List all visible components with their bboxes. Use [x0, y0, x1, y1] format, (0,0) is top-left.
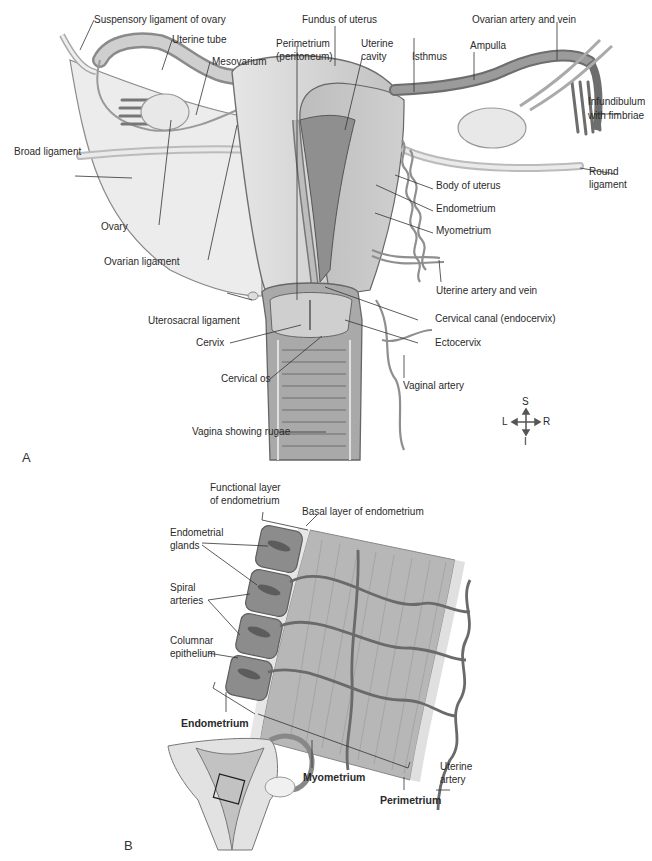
uterus-anatomy-illustration [0, 0, 652, 861]
label-infundibulum-1: Infundibulum [588, 96, 645, 108]
compass-right: R [543, 416, 550, 428]
label-suspensory-ligament: Suspensory ligament of ovary [94, 14, 226, 26]
label-uterine-cavity-1: Uterine [361, 38, 393, 50]
label-functional-layer-1: Functional layer [210, 482, 281, 494]
label-functional-layer-2: of endometrium [210, 495, 279, 507]
label-broad-ligament: Broad ligament [14, 146, 81, 158]
orientation-compass [512, 409, 540, 435]
label-uterine-artery-b-2: artery [440, 774, 466, 786]
label-ovary: Ovary [101, 221, 128, 233]
label-basal-layer: Basal layer of endometrium [302, 506, 424, 518]
label-uterine-cavity-2: cavity [361, 51, 387, 63]
label-perimetrium-b: Perimetrium [380, 794, 441, 806]
label-cervix: Cervix [196, 337, 224, 349]
label-vaginal-artery: Vaginal artery [403, 380, 464, 392]
compass-left: L [502, 416, 508, 428]
compass-inferior: I [524, 436, 527, 448]
uterus-body-shape [232, 56, 404, 300]
label-endometrial-glands-1: Endometrial [170, 527, 223, 539]
label-ampulla: Ampulla [470, 40, 506, 52]
label-infundibulum-2: with fimbriae [588, 110, 644, 122]
label-uterine-artery-b-1: Uterine [440, 761, 472, 773]
label-uterosacral-ligament: Uterosacral ligament [148, 315, 240, 327]
label-spiral-arteries-1: Spiral [170, 582, 196, 594]
label-uterine-tube: Uterine tube [172, 34, 226, 46]
inset-uterus [168, 736, 312, 850]
label-vagina: Vagina showing rugae [192, 426, 290, 438]
label-myometrium-b: Myometrium [303, 771, 365, 783]
label-peritoneum: (peritoneum) [276, 51, 333, 63]
label-fundus: Fundus of uterus [302, 14, 377, 26]
label-myometrium: Myometrium [436, 225, 491, 237]
label-round-ligament-2: ligament [589, 179, 627, 191]
compass-superior: S [522, 396, 529, 408]
label-endometrium: Endometrium [436, 203, 495, 215]
label-mesovarium: Mesovarium [212, 56, 266, 68]
label-ovarian-ligament: Ovarian ligament [104, 256, 180, 268]
label-endometrial-glands-2: glands [170, 540, 199, 552]
label-endometrium-b: Endometrium [181, 717, 249, 729]
label-spiral-arteries-2: arteries [170, 595, 203, 607]
label-ectocervix: Ectocervix [435, 337, 481, 349]
label-columnar-epithelium-2: epithelium [170, 648, 216, 660]
label-uterine-artery-vein: Uterine artery and vein [436, 285, 537, 297]
panel-b-letter: B [124, 838, 133, 853]
label-cervical-canal: Cervical canal (endocervix) [435, 313, 556, 325]
panel-a-letter: A [22, 450, 31, 465]
label-cervical-os: Cervical os [221, 373, 270, 385]
label-perimetrium: Perimetrium [276, 38, 330, 50]
label-body-of-uterus: Body of uterus [436, 180, 500, 192]
label-ovarian-artery: Ovarian artery and vein [472, 14, 576, 26]
label-columnar-epithelium-1: Columnar [170, 635, 213, 647]
label-isthmus: Isthmus [412, 51, 447, 63]
label-round-ligament-1: Round [589, 166, 618, 178]
